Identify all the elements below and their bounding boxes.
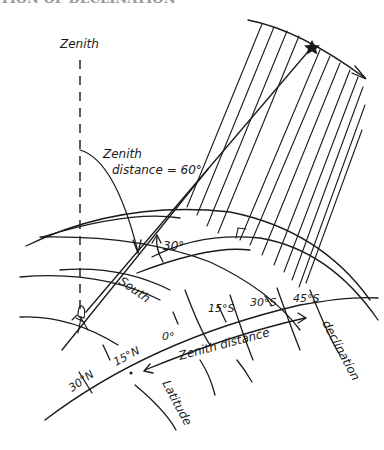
- diagram-stage: TION OF DECLINATION: [0, 0, 384, 450]
- latitude-0-label: 0°: [162, 330, 175, 343]
- zenith-label: Zenith: [59, 37, 99, 51]
- zenith-distance-arrow-label: Zenith distance: [176, 325, 271, 363]
- horizon-line: [137, 249, 250, 273]
- dot-marker: [130, 372, 133, 375]
- zd-arrowhead-right: [298, 313, 306, 323]
- latitude-30n-label: 30°N: [66, 368, 96, 395]
- zenith-distance-label-line2: distance = 60°: [112, 163, 202, 177]
- meridian-outer: [45, 298, 378, 420]
- celestial-diagram: Zenith Zenith distance = 60° 30° South 0…: [0, 0, 384, 450]
- cut-off-title: TION OF DECLINATION: [0, 0, 176, 6]
- latitude-15n-label: 15°N: [111, 344, 142, 368]
- latitude-45s-label: 45°S: [293, 292, 319, 305]
- latitude-30s-label: 30°S: [250, 296, 276, 309]
- declination-label: declination: [319, 318, 362, 383]
- parallel-rays: [187, 24, 365, 287]
- latitude-arcs: [20, 210, 370, 345]
- south-label: South: [116, 274, 153, 305]
- star-path-arrowhead: [352, 66, 366, 79]
- angle-label: 30°: [163, 239, 184, 253]
- latitude-label: Latitude: [159, 378, 195, 428]
- latitude-15s-label: 15°S: [208, 302, 234, 315]
- zenith-distance-label-line1: Zenith: [102, 147, 142, 161]
